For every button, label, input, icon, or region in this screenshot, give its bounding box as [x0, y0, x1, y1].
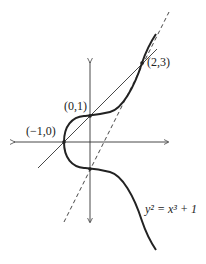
label-point-minus1-0: (−1,0) [26, 124, 56, 139]
point-2-3 [140, 61, 144, 65]
label-point-2-3: (2,3) [147, 55, 170, 70]
curve-upper-branch [64, 34, 156, 142]
label-point-0-1: (0,1) [64, 99, 87, 114]
point-minus1-0 [62, 140, 66, 144]
secant-line [38, 49, 157, 168]
point-0-1 [88, 114, 92, 118]
equation-label: y² = x³ + 1 [145, 202, 197, 217]
curve-lower-branch [64, 142, 156, 250]
point-0-minus1 [88, 167, 92, 171]
